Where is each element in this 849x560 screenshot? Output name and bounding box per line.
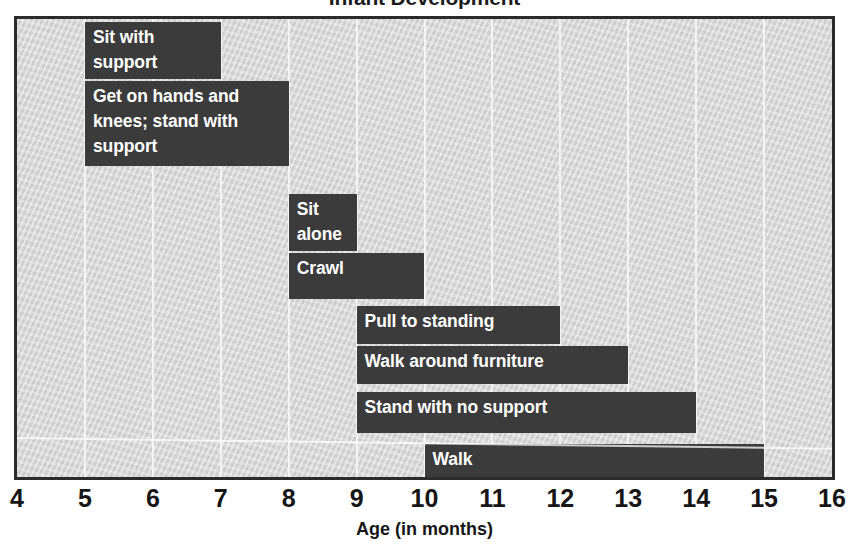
- x-tick-label-15: 15: [744, 484, 784, 513]
- x-tick-label-11: 11: [472, 484, 512, 513]
- bar-label: Stand with no support: [365, 397, 548, 417]
- chart-title: Infant Development: [0, 0, 849, 10]
- infant-development-chart: Infant Development Sit with supportGet o…: [0, 0, 849, 560]
- bar-label: Pull to standing: [365, 311, 495, 331]
- x-tick-label-9: 9: [337, 484, 377, 513]
- bar-label: Crawl: [297, 258, 344, 278]
- bar-label: Sit alone: [297, 199, 342, 244]
- x-tick-label-13: 13: [608, 484, 648, 513]
- x-tick-label-16: 16: [812, 484, 849, 513]
- bar-label: Get on hands and knees; stand with suppo…: [93, 86, 239, 156]
- bar-stand-with-no-support: Stand with no support: [357, 392, 697, 433]
- bar-walk: Walk: [425, 444, 765, 480]
- gridline-month-15: [763, 19, 765, 477]
- x-tick-label-4: 4: [0, 484, 37, 513]
- x-tick-label-6: 6: [133, 484, 173, 513]
- bar-label: Walk around furniture: [365, 351, 544, 371]
- x-tick-label-7: 7: [201, 484, 241, 513]
- bar-get-on-hands-and-knees-stand-with-support: Get on hands and knees; stand with suppo…: [85, 81, 289, 166]
- x-tick-label-8: 8: [269, 484, 309, 513]
- bar-crawl: Crawl: [289, 253, 425, 299]
- bar-pull-to-standing: Pull to standing: [357, 306, 561, 344]
- x-tick-label-14: 14: [676, 484, 716, 513]
- x-tick-label-10: 10: [405, 484, 445, 513]
- x-axis-tick-labels: 45678910111213141516: [0, 484, 849, 516]
- bar-walk-around-furniture: Walk around furniture: [357, 346, 629, 384]
- x-axis-title: Age (in months): [0, 519, 849, 540]
- bar-label: Walk: [433, 449, 473, 469]
- bar-label: Sit with support: [93, 27, 157, 72]
- plot-area: Sit with supportGet on hands and knees; …: [14, 16, 835, 480]
- x-tick-label-5: 5: [65, 484, 105, 513]
- bar-sit-with-support: Sit with support: [85, 22, 221, 79]
- x-tick-label-12: 12: [540, 484, 580, 513]
- bar-sit-alone: Sit alone: [289, 194, 357, 251]
